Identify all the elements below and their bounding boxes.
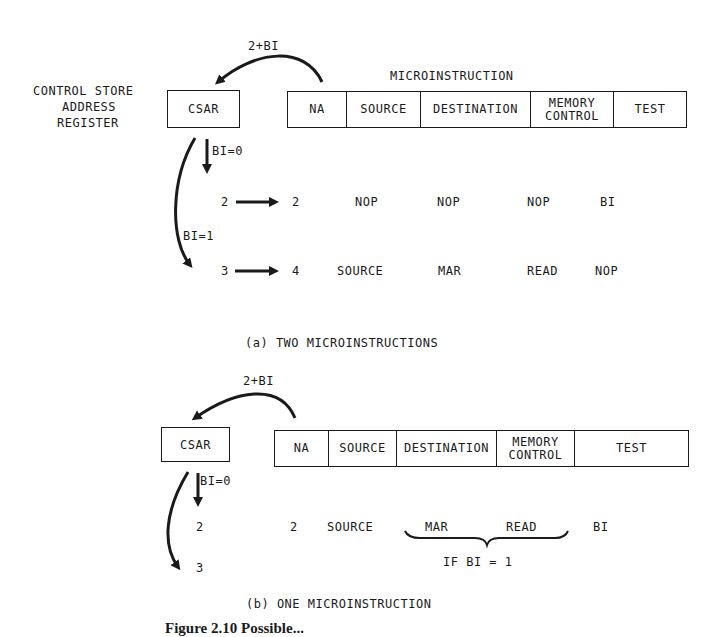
caption-b: (b) ONE MICROINSTRUCTION [246, 598, 431, 610]
row2-addr: 3 [221, 265, 229, 277]
brace-label: IF BI = 1 [443, 556, 513, 568]
field-source: SOURCE [347, 92, 421, 127]
caption-a: (a) TWO MICROINSTRUCTIONS [245, 337, 438, 349]
bi1-label-a: BI=1 [183, 230, 214, 242]
bi0-label-a: BI=0 [212, 145, 243, 157]
row1-memory: NOP [527, 196, 550, 208]
microinstruction-format-a: NA SOURCE DESTINATION MEMORY CONTROL TES… [287, 91, 687, 128]
field-memory-control-b: MEMORY CONTROL [497, 431, 575, 466]
arc-label-b: 2+BI [243, 375, 274, 387]
field-destination: DESTINATION [421, 92, 531, 127]
field-source-b: SOURCE [329, 431, 397, 466]
bi0-label-b: BI=0 [200, 475, 231, 487]
row1-na: 2 [292, 196, 300, 208]
row1-test: BI [600, 196, 615, 208]
field-memory-control: MEMORY CONTROL [531, 92, 614, 127]
branch-arc-b [168, 472, 188, 567]
csar-label-line1: CONTROL STORE [33, 85, 133, 97]
row2-test: NOP [595, 265, 618, 277]
csar-label-line2: ADDRESS [62, 101, 116, 113]
row-b-source: SOURCE [327, 521, 373, 533]
row1-source: NOP [355, 196, 378, 208]
row-b-memory: READ [506, 521, 537, 533]
figure-caption: Figure 2.10 Possible... [165, 620, 304, 637]
addr-3-b: 3 [196, 562, 204, 574]
row-b-na: 2 [290, 521, 298, 533]
microinstruction-title: MICROINSTRUCTION [390, 70, 514, 82]
next-address-arc-b [195, 394, 295, 418]
row2-source: SOURCE [337, 265, 383, 277]
csar-label-line3: REGISTER [57, 117, 119, 129]
row-b-test: BI [593, 521, 608, 533]
row2-memory: READ [527, 265, 558, 277]
field-destination-b: DESTINATION [397, 431, 497, 466]
next-address-arc-a [218, 56, 322, 82]
csar-box-b: CSAR [161, 427, 230, 462]
field-na: NA [288, 92, 347, 127]
row-b-destination: MAR [425, 521, 448, 533]
row2-na: 4 [292, 265, 300, 277]
field-na-b: NA [275, 431, 329, 466]
microinstruction-format-b: NA SOURCE DESTINATION MEMORY CONTROL TES… [274, 430, 689, 467]
row1-addr: 2 [221, 196, 229, 208]
addr-2-b: 2 [196, 521, 204, 533]
field-test-b: TEST [575, 431, 688, 466]
bi1-arc-a [176, 138, 195, 265]
row1-destination: NOP [437, 196, 460, 208]
row2-destination: MAR [438, 265, 461, 277]
arc-label-a: 2+BI [248, 40, 279, 52]
csar-box-a: CSAR [167, 90, 240, 128]
field-test: TEST [614, 92, 686, 127]
